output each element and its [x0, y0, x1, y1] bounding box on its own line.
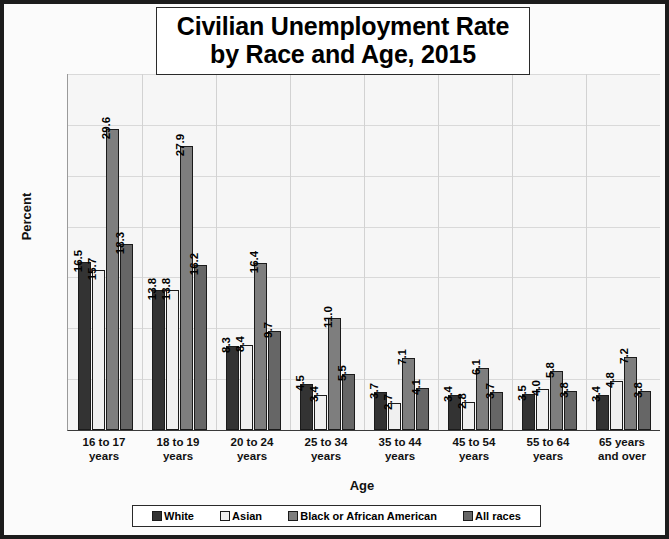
x-axis-category-label-line: 65 years	[585, 435, 659, 449]
bar-group: 8.38.416.49.7	[216, 74, 290, 430]
x-axis-category-label: 35 to 44years	[363, 435, 437, 463]
legend-label: All races	[475, 510, 521, 522]
bar-value-label: 3.8	[632, 382, 644, 398]
bar-slot: 18.3	[120, 74, 133, 430]
bar-value-label: 27.9	[174, 134, 186, 156]
bar[interactable]: 13.8	[166, 290, 179, 430]
bar-slot: 3.5	[522, 74, 535, 430]
bar-slot: 8.3	[226, 74, 239, 430]
bar-value-label: 15.7	[86, 258, 98, 280]
bar-slot: 16.4	[254, 74, 267, 430]
bar-value-label: 13.8	[146, 277, 158, 299]
bar-value-label: 16.4	[248, 251, 260, 273]
bar[interactable]: 5.5	[342, 374, 355, 430]
x-axis-category-label-line: and over	[585, 449, 659, 463]
bar[interactable]: 9.7	[268, 331, 281, 430]
x-axis-category-label-line: years	[363, 449, 437, 463]
bar[interactable]: 4.8	[610, 381, 623, 430]
bar-value-label: 8.3	[220, 337, 232, 353]
chart-legend: WhiteAsianBlack or African AmericanAll r…	[132, 505, 541, 527]
x-axis-category-labels: 16 to 17years18 to 19years20 to 24years2…	[67, 435, 659, 463]
bar[interactable]: 16.4	[254, 263, 267, 430]
bar[interactable]: 13.8	[152, 290, 165, 430]
bar-value-label: 8.4	[234, 336, 246, 352]
bar-slot: 4.5	[300, 74, 313, 430]
bar-group: 3.44.87.23.8	[586, 74, 660, 430]
bar[interactable]: 3.4	[314, 395, 327, 430]
bar-slot: 16.2	[194, 74, 207, 430]
bar[interactable]: 4.1	[416, 388, 429, 430]
plot-area: 35302520151050 16.515.729.618.313.813.82…	[67, 74, 660, 431]
bar-value-label: 7.2	[618, 348, 630, 364]
bar[interactable]: 3.7	[490, 392, 503, 430]
x-axis-category-label: 20 to 24years	[215, 435, 289, 463]
bar-value-label: 18.3	[114, 232, 126, 254]
bar[interactable]: 29.6	[106, 129, 119, 430]
x-axis-category-label-line: 25 to 34	[289, 435, 363, 449]
bar-slot: 7.1	[402, 74, 415, 430]
bar-value-label: 2.8	[456, 393, 468, 409]
bar[interactable]: 3.8	[564, 391, 577, 430]
bar-groups: 16.515.729.618.313.813.827.916.28.38.416…	[68, 74, 660, 430]
bar[interactable]: 16.2	[194, 265, 207, 430]
y-axis-title: Percent	[19, 172, 34, 262]
bar-slot: 3.4	[314, 74, 327, 430]
bar-value-label: 3.4	[442, 386, 454, 402]
x-axis-title: Age	[62, 478, 662, 493]
legend-swatch-icon	[220, 511, 230, 521]
bar[interactable]: 15.7	[92, 270, 105, 430]
bar-slot: 2.7	[388, 74, 401, 430]
bar[interactable]: 3.5	[522, 394, 535, 430]
bar[interactable]: 16.5	[78, 262, 91, 430]
bar-slot: 3.7	[374, 74, 387, 430]
x-axis-category-label-line: 18 to 19	[141, 435, 215, 449]
bar[interactable]: 3.8	[638, 391, 651, 430]
bar[interactable]: 18.3	[120, 244, 133, 430]
bar[interactable]: 3.4	[596, 395, 609, 430]
bar-slot: 5.8	[550, 74, 563, 430]
legend-label: Black or African American	[300, 510, 437, 522]
bar-slot: 4.8	[610, 74, 623, 430]
legend-label: Asian	[232, 510, 262, 522]
bar-value-label: 4.5	[294, 375, 306, 391]
legend-item[interactable]: Black or African American	[288, 510, 437, 522]
x-axis-category-label: 45 to 54years	[437, 435, 511, 463]
x-axis-category-label-line: years	[511, 449, 585, 463]
bar[interactable]: 8.4	[240, 345, 253, 430]
bar-value-label: 2.7	[382, 394, 394, 410]
bar-slot: 3.8	[564, 74, 577, 430]
legend-item[interactable]: All races	[463, 510, 521, 522]
x-axis-category-label-line: years	[67, 449, 141, 463]
bar-group: 3.54.05.83.8	[512, 74, 586, 430]
legend-swatch-icon	[152, 511, 162, 521]
x-axis-category-label: 25 to 34years	[289, 435, 363, 463]
x-axis-category-label-line: 35 to 44	[363, 435, 437, 449]
x-axis-category-label-line: years	[141, 449, 215, 463]
bar-slot: 3.8	[638, 74, 651, 430]
bar[interactable]: 5.8	[550, 371, 563, 430]
legend-item[interactable]: White	[152, 510, 194, 522]
bar-slot: 6.1	[476, 74, 489, 430]
x-axis-category-label-line: 55 to 64	[511, 435, 585, 449]
bar[interactable]: 2.7	[388, 403, 401, 430]
bar-group: 4.53.411.05.5	[290, 74, 364, 430]
bar-slot: 9.7	[268, 74, 281, 430]
bar-value-label: 16.5	[72, 250, 84, 272]
bar-slot: 4.1	[416, 74, 429, 430]
legend-label: White	[164, 510, 194, 522]
x-axis-category-label-line: years	[437, 449, 511, 463]
bar-value-label: 4.1	[410, 379, 422, 395]
bar[interactable]: 27.9	[180, 146, 193, 430]
bar-slot: 16.5	[78, 74, 91, 430]
bar-value-label: 29.6	[100, 117, 112, 139]
bar-group: 13.813.827.916.2	[142, 74, 216, 430]
bar[interactable]: 2.8	[462, 402, 475, 430]
bar-slot: 2.8	[462, 74, 475, 430]
bar-group: 3.42.86.13.7	[438, 74, 512, 430]
bar[interactable]: 8.3	[226, 346, 239, 430]
bar[interactable]: 4.0	[536, 389, 549, 430]
bar-value-label: 3.7	[484, 383, 496, 399]
bar-value-label: 3.7	[368, 383, 380, 399]
legend-item[interactable]: Asian	[220, 510, 262, 522]
bar-slot: 5.5	[342, 74, 355, 430]
